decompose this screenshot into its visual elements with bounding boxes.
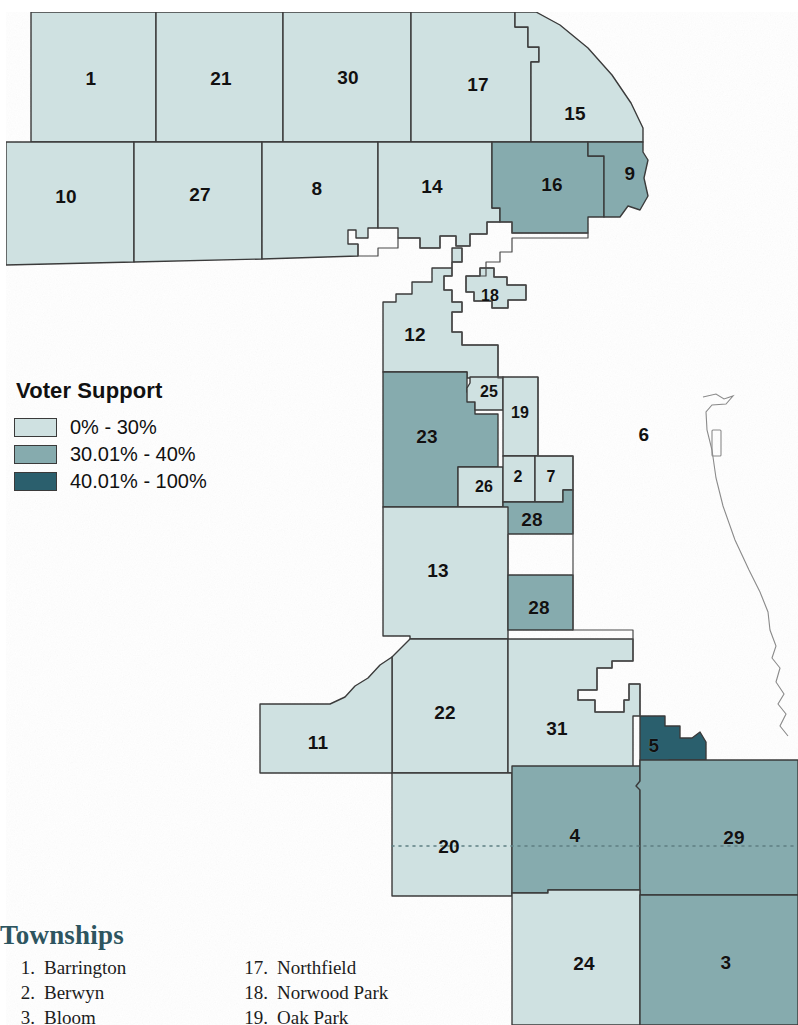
region-31: [508, 639, 640, 773]
townships-column-right: 17.Northfield18.Norwood Park19.Oak Park: [243, 955, 388, 1025]
township-number: 18.: [243, 980, 277, 1005]
region-18: [466, 268, 526, 308]
township-list-item: 2.Berwyn: [10, 980, 126, 1005]
township-name: Berwyn: [44, 980, 104, 1005]
township-list-item: 19.Oak Park: [243, 1005, 388, 1025]
legend-item-3: 40.01% - 100%: [14, 468, 254, 494]
legend: Voter Support 0% - 30%30.01% - 40%40.01%…: [14, 378, 254, 495]
region-28b: [508, 575, 573, 630]
region-24: [512, 890, 640, 1025]
legend-item-1: 0% - 30%: [14, 414, 254, 440]
region-30: [283, 12, 411, 142]
region-11: [260, 657, 392, 773]
township-number: 1.: [10, 955, 44, 980]
region-15: [515, 12, 643, 142]
region-26: [458, 467, 503, 507]
lakefront-outline: [703, 394, 788, 736]
township-number: 3.: [10, 1005, 44, 1025]
region-5: [640, 716, 706, 766]
township-name: Norwood Park: [277, 980, 388, 1005]
region-17: [411, 12, 539, 142]
township-name: Barrington: [44, 955, 126, 980]
legend-swatch-1: [14, 418, 57, 437]
townships-title: Townships: [0, 920, 520, 951]
region-4: [512, 766, 640, 893]
legend-title: Voter Support: [16, 378, 254, 404]
township-number: 19.: [243, 1005, 277, 1025]
region-8: [262, 142, 378, 259]
legend-label-3: 40.01% - 100%: [70, 470, 207, 493]
townships-section: Townships 1.Barrington2.Berwyn3.Bloom 17…: [0, 920, 520, 1025]
choropleth-map: 1213017151027814169181225192362627281328…: [0, 0, 798, 1025]
township-list-item: 18.Norwood Park: [243, 980, 388, 1005]
region-27: [134, 142, 262, 262]
region-10: [6, 142, 134, 265]
legend-label-2: 30.01% - 40%: [70, 443, 196, 466]
region-2: [503, 456, 535, 502]
township-number: 17.: [243, 955, 277, 980]
legend-label-1: 0% - 30%: [70, 416, 157, 439]
township-list-item: 17.Northfield: [243, 955, 388, 980]
townships-column-left: 1.Barrington2.Berwyn3.Bloom: [10, 955, 126, 1025]
map-svg: [0, 0, 798, 1025]
legend-swatch-2: [14, 445, 57, 464]
region-3: [640, 895, 798, 1025]
region-21: [156, 12, 283, 142]
township-list-item: 3.Bloom: [10, 1005, 126, 1025]
region-14: [378, 142, 500, 248]
legend-swatch-3: [14, 472, 57, 491]
region-1: [31, 12, 156, 142]
region-16: [492, 142, 604, 233]
region-13: [383, 507, 508, 639]
region-22: [392, 639, 508, 773]
region-20: [392, 773, 512, 896]
region-19: [503, 377, 538, 456]
legend-item-2: 30.01% - 40%: [14, 441, 254, 467]
townships-columns: 1.Barrington2.Berwyn3.Bloom 17.Northfiel…: [0, 955, 520, 1025]
legend-items: 0% - 30%30.01% - 40%40.01% - 100%: [14, 414, 254, 494]
township-name: Northfield: [277, 955, 356, 980]
township-name: Oak Park: [277, 1005, 348, 1025]
township-name: Bloom: [44, 1005, 96, 1025]
region-29: [636, 760, 798, 895]
township-number: 2.: [10, 980, 44, 1005]
township-list-item: 1.Barrington: [10, 955, 126, 980]
